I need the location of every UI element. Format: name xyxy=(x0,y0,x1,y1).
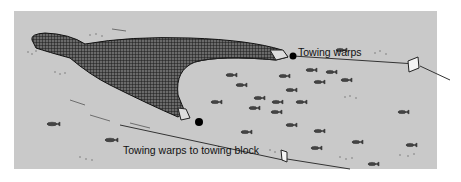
bottom-warp-connector xyxy=(195,118,203,126)
top-warp-continuation xyxy=(420,66,450,80)
bottom-towing-block xyxy=(281,150,287,162)
trawl-net xyxy=(32,33,288,117)
bottom-warp-continuation xyxy=(287,159,350,169)
top-towing-block xyxy=(408,57,419,72)
label-towing-warps: Towing warps xyxy=(298,46,362,58)
label-towing-warps-to-block: Towing warps to towing block xyxy=(123,144,259,156)
top-warp-connector xyxy=(290,53,297,60)
wing-bottom xyxy=(178,108,190,120)
